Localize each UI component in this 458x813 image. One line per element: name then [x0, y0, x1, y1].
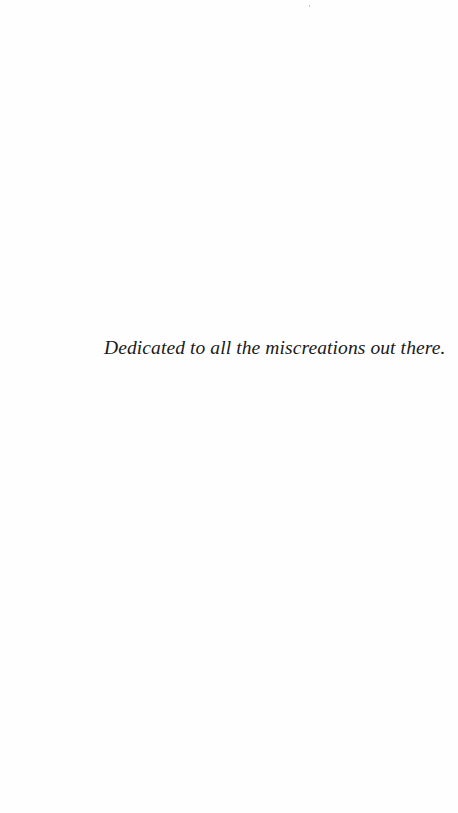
- book-page: Dedicated to all the miscreations out th…: [0, 0, 458, 813]
- scan-artifact: [309, 5, 310, 7]
- dedication-text: Dedicated to all the miscreations out th…: [104, 336, 344, 360]
